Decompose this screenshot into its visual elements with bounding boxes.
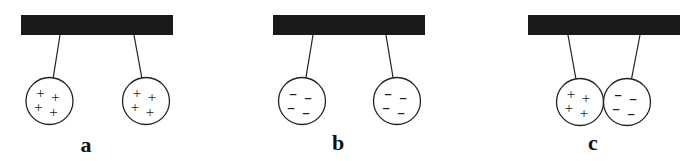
support-bar [273, 15, 425, 35]
minus-sign-icon: – [384, 86, 391, 101]
plus-sign-icon: + [580, 105, 588, 121]
string [306, 35, 313, 78]
panel-label: b [332, 130, 344, 155]
minus-sign-icon: – [304, 90, 311, 105]
string [134, 35, 142, 78]
charged-spheres-diagram: ++++++++a––––––––b++++––––c [0, 0, 697, 161]
minus-sign-icon: – [382, 100, 389, 115]
positive-sphere: ++++ [26, 78, 73, 125]
plus-sign-icon: + [49, 104, 57, 120]
negative-sphere: –––– [374, 78, 421, 125]
plus-sign-icon: + [565, 100, 573, 116]
minus-sign-icon: – [287, 100, 294, 115]
panel-label: a [81, 132, 92, 157]
plus-sign-icon: + [51, 89, 59, 105]
string [386, 35, 393, 78]
minus-sign-icon: – [627, 106, 634, 121]
negative-sphere: –––– [279, 78, 326, 125]
minus-sign-icon: – [614, 87, 621, 102]
support-bar [21, 15, 173, 35]
minus-sign-icon: – [399, 90, 406, 105]
minus-sign-icon: – [612, 101, 619, 116]
plus-sign-icon: + [34, 99, 42, 115]
plus-sign-icon: + [148, 89, 156, 105]
string [632, 35, 641, 79]
string [568, 35, 576, 79]
panel-a: ++++++++a [21, 15, 173, 157]
positive-sphere: ++++ [557, 79, 604, 126]
minus-sign-icon: – [397, 105, 404, 120]
diagram-canvas: ++++++++a––––––––b++++––––c [0, 0, 697, 161]
panel-label: c [588, 130, 598, 155]
string [53, 35, 60, 78]
positive-sphere: ++++ [123, 78, 170, 125]
plus-sign-icon: + [582, 90, 590, 106]
minus-sign-icon: – [629, 91, 636, 106]
minus-sign-icon: – [289, 86, 296, 101]
negative-sphere: –––– [604, 79, 651, 126]
panel-b: ––––––––b [273, 15, 425, 155]
panel-c: ++++––––c [528, 15, 680, 155]
plus-sign-icon: + [146, 104, 154, 120]
support-bar [528, 15, 680, 35]
minus-sign-icon: – [302, 105, 309, 120]
plus-sign-icon: + [131, 99, 139, 115]
